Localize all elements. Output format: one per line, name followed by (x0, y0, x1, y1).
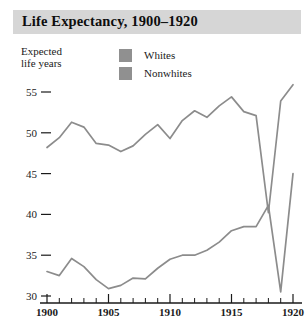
y-tick-label: 30 (26, 290, 38, 302)
x-tick-label: 1920 (282, 306, 305, 318)
chart-figure: Life Expectancy, 1900–1920 Expected life… (0, 0, 306, 323)
x-axis-tick-labels: 19001905191019151920 (36, 306, 305, 318)
y-axis-ticks (41, 92, 51, 296)
y-tick-label: 50 (26, 127, 38, 139)
y-tick-label: 40 (26, 208, 38, 220)
x-axis-ticks (47, 294, 293, 303)
x-tick-label: 1910 (159, 306, 182, 318)
y-axis-tick-labels: 303540455055 (26, 86, 38, 302)
x-tick-label: 1900 (36, 306, 59, 318)
x-tick-label: 1905 (98, 306, 121, 318)
series-line-whites (47, 85, 293, 213)
y-tick-label: 35 (26, 249, 38, 261)
y-tick-label: 55 (26, 86, 38, 98)
x-tick-label: 1915 (221, 306, 244, 318)
series-line-nonwhites (47, 174, 293, 292)
y-tick-label: 45 (26, 168, 38, 180)
data-series-lines (47, 85, 293, 292)
plot-area: 303540455055 19001905191019151920 (0, 0, 306, 323)
